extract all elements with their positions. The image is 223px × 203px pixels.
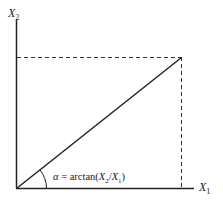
- vector-line: [17, 58, 182, 189]
- diagram-canvas: X2 X1 α = arctan(X2/X1): [0, 0, 223, 203]
- angle-arc: [40, 170, 47, 189]
- x-axis-label: X1: [198, 180, 210, 196]
- angle-label: α = arctan(X2/X1): [53, 171, 126, 185]
- y-axis-label: X2: [7, 6, 19, 22]
